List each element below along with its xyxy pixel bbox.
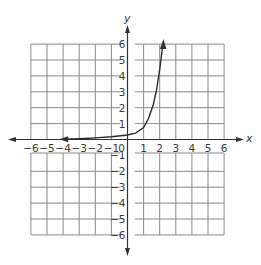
x-tick-label: 5 — [205, 142, 212, 154]
y-tick-label: −1 — [110, 149, 125, 161]
y-tick-label: 2 — [119, 102, 126, 114]
x-tick-label: −3 — [71, 142, 86, 154]
y-axis-up-arrow-icon — [125, 25, 130, 33]
x-tick-label: 2 — [156, 142, 163, 154]
y-tick-label: 5 — [119, 54, 126, 66]
x-tick-label: 3 — [172, 142, 179, 154]
y-tick-label: −2 — [110, 165, 125, 177]
x-tick-label: 1 — [140, 142, 147, 154]
coordinate-plane: −6−5−4−3−2−10123456−6−5−4−3−2−1123456 x … — [0, 0, 261, 265]
y-tick-label: −6 — [110, 229, 126, 241]
y-tick-label: −5 — [110, 213, 125, 225]
y-tick-label: 4 — [119, 70, 126, 82]
x-tick-label: 4 — [189, 142, 196, 154]
x-axis-left-arrow-icon — [8, 137, 16, 142]
x-tick-label: 6 — [221, 142, 228, 154]
y-tick-label: 3 — [119, 86, 126, 98]
x-tick-label: −4 — [55, 142, 71, 154]
x-axis-label: x — [245, 132, 253, 145]
y-axis-label: y — [123, 12, 131, 25]
y-tick-label: −3 — [110, 181, 125, 193]
x-tick-label: −6 — [23, 142, 39, 154]
x-axis-right-arrow-icon — [236, 137, 244, 142]
y-axis-down-arrow-icon — [125, 248, 130, 256]
y-tick-label: −4 — [110, 197, 126, 209]
x-tick-label: −5 — [39, 142, 54, 154]
y-tick-label: 6 — [119, 38, 126, 50]
curve-arrowheads — [59, 39, 166, 142]
y-tick-label: 1 — [119, 118, 126, 130]
x-tick-label: −2 — [88, 142, 103, 154]
